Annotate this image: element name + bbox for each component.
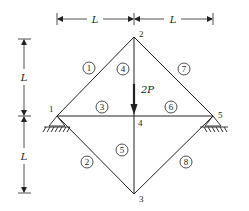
arrow-down-icon — [131, 104, 138, 115]
member-label-4: 4 — [121, 64, 126, 74]
node-label-2: 2 — [139, 29, 144, 39]
member-label-6: 6 — [169, 102, 174, 112]
member-2 — [57, 116, 134, 194]
dimension-label-h1: L — [91, 14, 99, 25]
truss-members — [57, 37, 213, 194]
dimension-label-v1: L — [20, 72, 28, 83]
member-label-3: 3 — [100, 102, 105, 112]
node-label-5: 5 — [218, 110, 223, 120]
dimension-label-v2: L — [20, 151, 28, 162]
member-1 — [57, 37, 134, 116]
node-label-1: 1 — [49, 104, 54, 114]
member-label-8: 8 — [184, 157, 189, 167]
pin-support-node-1 — [43, 116, 70, 132]
load-label: 2P — [140, 84, 154, 95]
member-label-5: 5 — [120, 145, 125, 155]
member-label-2: 2 — [85, 157, 90, 167]
vertical-dimension — [18, 39, 31, 193]
member-label-1: 1 — [87, 63, 92, 73]
load-arrow — [131, 84, 138, 115]
dimension-label-h2: L — [169, 14, 177, 25]
node-label-3: 3 — [139, 194, 144, 204]
member-label-7: 7 — [182, 64, 187, 74]
member-7 — [134, 37, 213, 116]
truss-diagram: L L L L — [0, 0, 249, 211]
node-label-4: 4 — [138, 118, 143, 128]
member-8 — [134, 116, 213, 194]
horizontal-dimension — [57, 13, 213, 25]
